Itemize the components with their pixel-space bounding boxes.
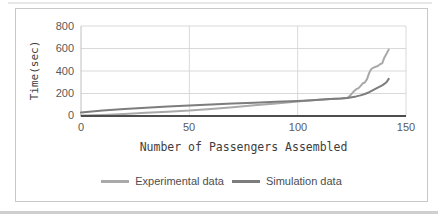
x-tick-50: 50 bbox=[169, 121, 209, 133]
legend-item-simulation: Simulation data bbox=[232, 175, 342, 187]
scan-artifact-top bbox=[8, 2, 432, 4]
y-tick-0: 0 bbox=[38, 109, 74, 121]
x-tick-100: 100 bbox=[278, 121, 318, 133]
x-tick-0: 0 bbox=[61, 121, 101, 133]
chart-frame: Time(sec) 800 600 400 200 0 0 50 100 150… bbox=[15, 8, 428, 202]
y-tick-400: 400 bbox=[38, 65, 74, 77]
y-tick-600: 600 bbox=[38, 42, 74, 54]
scan-artifact-bottom bbox=[0, 211, 438, 214]
chart-legend: Experimental data Simulation data bbox=[16, 175, 427, 187]
experimental-line-swatch bbox=[101, 180, 129, 183]
x-tick-150: 150 bbox=[386, 121, 426, 133]
legend-item-experimental: Experimental data bbox=[101, 175, 224, 187]
chart-figure: Time(sec) 800 600 400 200 0 0 50 100 150… bbox=[0, 0, 438, 219]
plot-area bbox=[81, 26, 406, 116]
x-axis-title: Number of Passengers Assembled bbox=[81, 141, 406, 154]
legend-label-simulation: Simulation data bbox=[266, 175, 342, 187]
y-tick-800: 800 bbox=[38, 20, 74, 32]
y-tick-200: 200 bbox=[38, 87, 74, 99]
simulation-line-swatch bbox=[232, 180, 260, 183]
legend-label-experimental: Experimental data bbox=[135, 175, 224, 187]
